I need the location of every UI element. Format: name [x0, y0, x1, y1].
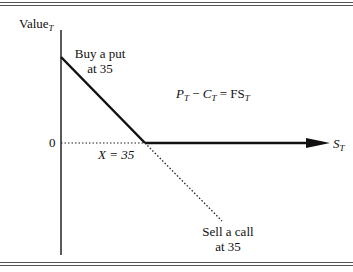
call-label: Sell a call at 35 [196, 224, 260, 254]
strike-label: X = 35 [98, 147, 134, 162]
x-axis-arrowhead-icon [306, 138, 330, 148]
zero-label: 0 [49, 135, 56, 150]
y-axis-label: ValueT [19, 16, 54, 36]
short-call-payoff-line [145, 143, 222, 221]
put-label: Buy a put at 35 [70, 46, 130, 76]
equation-label: PT − CT = FST [176, 86, 250, 106]
x-axis-label: ST [333, 136, 345, 156]
